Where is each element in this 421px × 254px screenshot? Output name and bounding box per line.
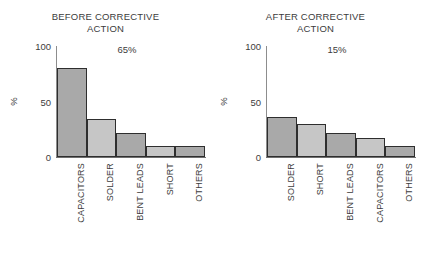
y-tick-0-before: 0 [46, 152, 51, 163]
chart-title-before: BEFORE CORRECTIVE ACTION [0, 11, 211, 34]
y-tick-100-before: 100 [35, 41, 51, 52]
bar-group-after [267, 46, 415, 157]
x-label-bent-leads-before: BENT LEADS [135, 163, 145, 221]
y-axis-label-after: % [218, 97, 229, 105]
bar-others-after [385, 146, 415, 157]
x-label-solder-after: SOLDER [286, 163, 296, 201]
x-label-solder-before: SOLDER [105, 163, 115, 201]
x-label-others-after: OTHERS [404, 163, 414, 202]
bar-short-before [146, 146, 176, 157]
x-axis-labels-before: CAPACITORS SOLDER BENT LEADS SHORT OTHER… [57, 163, 205, 251]
x-axis-line-before [56, 157, 206, 158]
bar-solder-before [87, 119, 117, 157]
x-label-capacitors-after: CAPACITORS [375, 163, 385, 223]
bar-bent-leads-before [116, 133, 146, 157]
chart-panel-before: BEFORE CORRECTIVE ACTION 65% 100 50 0 % … [0, 0, 211, 254]
bar-bent-leads-after [326, 133, 356, 157]
y-axis-label-before: % [8, 97, 19, 105]
bar-solder-after [267, 117, 297, 157]
x-axis-labels-after: SOLDER SHORT BENT LEADS CAPACITORS OTHER… [267, 163, 415, 251]
chart-title-after: AFTER CORRECTIVE ACTION [210, 11, 421, 34]
y-tick-50-after: 50 [250, 96, 261, 107]
x-label-capacitors-before: CAPACITORS [76, 163, 86, 223]
x-axis-line-after [266, 157, 416, 158]
y-tick-50-before: 50 [40, 96, 51, 107]
bar-group-before [57, 46, 205, 157]
x-label-short-after: SHORT [315, 163, 325, 195]
x-label-bent-leads-after: BENT LEADS [345, 163, 355, 221]
bar-capacitors-after [356, 138, 386, 157]
y-tick-0-after: 0 [256, 152, 261, 163]
bar-short-after [297, 124, 327, 157]
bar-capacitors-before [57, 68, 87, 157]
plot-area-after: 100 50 0 % [266, 46, 415, 157]
y-tick-100-after: 100 [245, 41, 261, 52]
plot-area-before: 100 50 0 % [56, 46, 205, 157]
chart-panel-after: AFTER CORRECTIVE ACTION 15% 100 50 0 % S… [210, 0, 421, 254]
x-label-short-before: SHORT [165, 163, 175, 195]
figure-two-pareto-bar-charts: BEFORE CORRECTIVE ACTION 65% 100 50 0 % … [0, 0, 421, 254]
x-label-others-before: OTHERS [194, 163, 204, 202]
bar-others-before [175, 146, 205, 157]
